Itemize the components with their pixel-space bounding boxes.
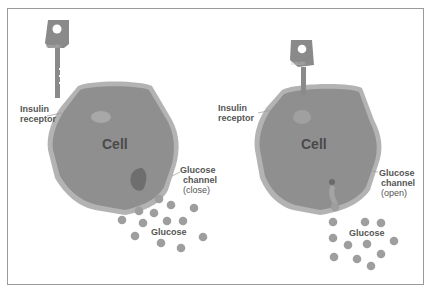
diagram-canvas <box>0 0 432 293</box>
glucose-label-left: Glucose <box>151 227 187 237</box>
glucose-molecules-right <box>329 218 399 271</box>
channel-label-right-line1: Glucose <box>379 168 415 178</box>
receptor-label-right-line2: receptor <box>218 113 254 123</box>
cell-label-right: Cell <box>301 136 327 152</box>
channel-state-left: (close) <box>183 185 210 195</box>
channel-state-right: (open) <box>381 188 407 198</box>
key-label-left: Insulin <box>46 41 60 51</box>
channel-label-left-line2: channel <box>183 175 217 185</box>
channel-label-left-line1: Glucose <box>180 165 216 175</box>
receptor-label-right-line1: Insulin <box>218 103 247 113</box>
cell-label-left: Cell <box>102 136 128 152</box>
channel-label-right-line2: channel <box>381 178 415 188</box>
key-label-right: Insulin <box>291 58 305 68</box>
receptor-label-left-line1: Insulin <box>20 104 49 114</box>
insulin-key-icon <box>45 20 69 98</box>
glucose-label-right: Glucose <box>349 228 385 238</box>
insulin-receptor-icon <box>91 111 111 123</box>
receptor-label-left-line2: receptor <box>20 114 56 124</box>
insulin-receptor-icon <box>293 110 311 124</box>
